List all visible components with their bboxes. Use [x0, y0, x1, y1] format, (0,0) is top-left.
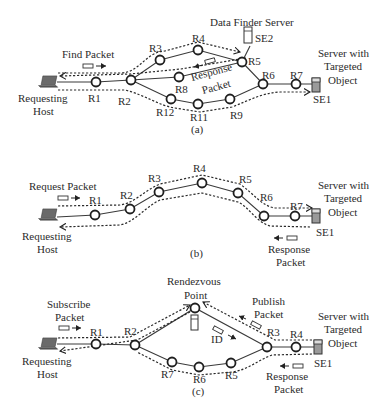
server-label: Server with [318, 47, 370, 59]
router-label: R7 [161, 368, 174, 380]
data-finder-label: Data Finder Server [210, 16, 294, 28]
router-node [155, 188, 164, 197]
laptop-icon [39, 209, 58, 220]
response-label: Response [266, 370, 308, 382]
router-label: R2 [120, 189, 133, 201]
router-node [195, 363, 204, 372]
server-se1-icon [314, 340, 322, 354]
panel-c: Subscribe Packet Rendezvous Point Publis… [22, 275, 370, 398]
router-label: R1 [90, 326, 103, 338]
router-node [92, 340, 101, 349]
request-packet-icon [58, 196, 68, 200]
router-node [292, 343, 301, 352]
server-label: Targeted [324, 192, 363, 204]
se1-label: SE1 [314, 357, 332, 369]
router-label: R4 [290, 328, 303, 340]
router-node [291, 212, 300, 221]
router-label: R1 [88, 92, 101, 104]
server-label: Object [328, 337, 357, 349]
router-label: R4 [193, 162, 206, 174]
router-label: R5 [239, 173, 252, 185]
subscribe-label: Subscribe [47, 298, 91, 310]
publish-label: Publish [252, 295, 286, 307]
router-label: R9 [230, 109, 243, 121]
router-node [238, 58, 247, 67]
router-label: R3 [148, 172, 161, 184]
server-label: Targeted [324, 323, 363, 335]
publish-packet-icon [251, 321, 262, 329]
router-node [194, 100, 203, 109]
router-node [260, 212, 269, 221]
host-label: Host [33, 105, 54, 117]
caption-c: (c) [192, 385, 205, 398]
router-label: R11 [190, 111, 208, 123]
laptop-icon [39, 338, 58, 349]
network-diagram: Find Packet Data Finder Server SE2 SE1 R… [0, 0, 385, 417]
router-label: R12 [156, 106, 174, 118]
router-node [168, 358, 177, 367]
router-node [198, 179, 207, 188]
request-packet-label: Request Packet [29, 180, 97, 192]
router-node [263, 343, 272, 352]
router-label: R6 [260, 191, 273, 203]
router-node [92, 78, 101, 87]
se1-label: SE1 [316, 226, 334, 238]
rendezvous-label: Rendezvous [167, 275, 221, 287]
server-label: Server with [318, 310, 370, 322]
router-label: R7 [290, 69, 303, 81]
subscribe-label: Packet [55, 311, 84, 323]
se1-label: SE1 [313, 93, 331, 105]
server-label: Server with [318, 179, 370, 191]
subscribe-packet-icon [59, 326, 69, 330]
router-label: R2 [118, 95, 131, 107]
router-label: R5 [225, 369, 238, 381]
router-label: R2 [124, 325, 137, 337]
server-se1-icon [312, 78, 320, 92]
router-label: R8 [175, 83, 188, 95]
find-packet-icon [83, 64, 93, 68]
host-label: Requesting [22, 230, 72, 242]
response-label: Packet [200, 77, 231, 96]
router-label: R3 [267, 326, 280, 338]
router-label: R6 [262, 69, 275, 81]
host-label: Requesting [22, 355, 72, 367]
router-label: R7 [290, 200, 303, 212]
router-node [91, 211, 100, 220]
caption-b: (b) [190, 247, 203, 260]
router-label: R5 [248, 55, 261, 67]
router-label: R3 [149, 42, 162, 54]
rendezvous-node [191, 304, 200, 313]
router-node [131, 341, 140, 350]
router-node [126, 205, 135, 214]
server-label: Object [328, 206, 357, 218]
router-node [127, 76, 136, 85]
response-packet-icon [287, 236, 297, 240]
rendezvous-label: Point [184, 289, 207, 301]
router-node [175, 73, 184, 82]
id-label: ID [211, 333, 223, 345]
router-node [167, 95, 176, 104]
router-node [194, 46, 203, 55]
server-label: Object [328, 74, 357, 86]
router-label: R1 [89, 194, 102, 206]
laptop-icon [39, 76, 58, 87]
router-label: R4 [192, 32, 205, 44]
response-label: Response [268, 243, 310, 255]
server-label: Targeted [324, 60, 363, 72]
rendezvous-server-icon [191, 315, 198, 330]
router-node [227, 359, 236, 368]
server-se2-icon [244, 27, 252, 43]
caption-a: (a) [191, 123, 204, 136]
host-label: Host [37, 243, 58, 255]
response-packet-icon [293, 364, 303, 368]
publish-label: Packet [254, 308, 283, 320]
router-label: R6 [193, 373, 206, 385]
router-node [226, 95, 235, 104]
response-label: Packet [276, 256, 305, 268]
publish-packet-arrow-icon [239, 316, 246, 319]
router-node [156, 56, 165, 65]
response-label: Packet [274, 383, 303, 395]
host-label: Requesting [18, 92, 68, 104]
se2-label: SE2 [255, 32, 273, 44]
panel-b: Request Packet R1 R2 R3 R4 R5 R6 R7 SE1 … [22, 162, 370, 268]
